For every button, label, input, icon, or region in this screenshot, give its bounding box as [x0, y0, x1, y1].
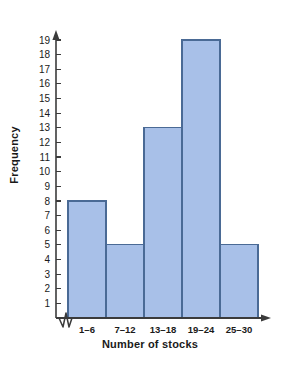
y-axis-arrowhead [52, 30, 59, 40]
histogram-bar [220, 245, 258, 318]
y-axis-tick-label: 3 [44, 269, 50, 280]
y-axis-tick-label: 11 [40, 152, 51, 163]
y-axis-tick-label: 14 [39, 108, 51, 119]
x-axis-tick-label: 19–24 [188, 324, 215, 335]
plot-area: 123456789101112131415161718191–67–1213–1… [26, 14, 284, 369]
x-axis-title: Number of stocks [30, 338, 270, 350]
histogram-bar [106, 245, 144, 318]
histogram-bar [68, 201, 106, 318]
y-axis-tick-label: 2 [44, 283, 50, 294]
bars-group [68, 40, 258, 318]
y-axis-title-label: Frequency [8, 126, 20, 183]
plot-svg: 123456789101112131415161718191–67–1213–1… [26, 14, 284, 369]
y-axis-tick-label: 10 [39, 166, 51, 177]
x-axis-tick-labels: 1–67–1213–1819–2425–30 [79, 324, 252, 335]
y-axis-tick-label: 12 [39, 137, 51, 148]
y-axis-tick-label: 6 [44, 225, 50, 236]
y-axis-tick-label: 8 [44, 196, 50, 207]
x-axis-tick-label: 7–12 [114, 324, 135, 335]
y-axis-ticks: 12345678910111213141516171819 [39, 35, 61, 309]
y-axis-tick-label: 4 [44, 254, 50, 265]
histogram-bar [182, 40, 220, 318]
x-axis-arrowhead [261, 314, 271, 321]
y-axis-tick-label: 9 [44, 181, 50, 192]
x-axis-tick-label: 13–18 [150, 324, 176, 335]
y-axis-tick-label: 19 [39, 35, 51, 46]
histogram-chart: Frequency 123456789101112131415161718191… [0, 0, 284, 369]
y-axis-tick-label: 17 [39, 64, 51, 75]
histogram-bar [144, 128, 182, 318]
y-axis-tick-label: 18 [39, 49, 51, 60]
y-axis-tick-label: 13 [39, 122, 51, 133]
y-axis-tick-label: 16 [39, 78, 51, 89]
y-axis-title: Frequency [2, 0, 26, 310]
y-axis-tick-label: 5 [44, 239, 50, 250]
y-axis-tick-label: 7 [44, 210, 50, 221]
x-axis-tick-label: 25–30 [226, 324, 252, 335]
y-axis-tick-label: 15 [39, 93, 51, 104]
y-axis-tick-label: 1 [44, 298, 50, 309]
x-axis-tick-label: 1–6 [79, 324, 95, 335]
